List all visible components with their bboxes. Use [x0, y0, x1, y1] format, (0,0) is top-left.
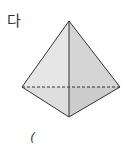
triangular-pyramid-figure	[0, 0, 128, 148]
answer-open-paren: (	[30, 131, 35, 144]
